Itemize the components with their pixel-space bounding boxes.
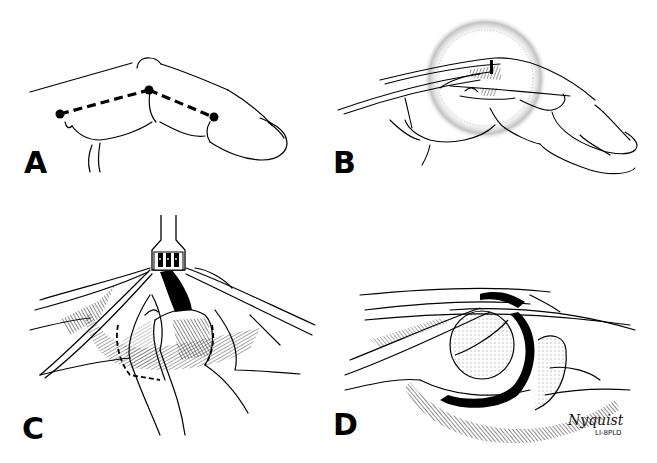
condyle [450, 311, 514, 379]
illustrator-signature-sub: LI-8PLD [595, 430, 621, 437]
panel-c: C [0, 200, 330, 463]
panel-d: D Nyquist LI-8PLD [330, 250, 657, 463]
incision-point-2 [145, 86, 154, 95]
surgical-retraction-illustration [0, 200, 330, 463]
incision-point-3 [210, 113, 219, 122]
finger-anatomy-illustration [330, 0, 657, 200]
illustrator-signature: Nyquist [568, 413, 623, 427]
panel-label-b: B [333, 148, 356, 178]
panel-label-a: A [24, 148, 47, 178]
retractor-icon [152, 215, 185, 270]
panel-label-d: D [333, 410, 358, 440]
panel-b: B [330, 0, 657, 200]
incision-point-1 [56, 110, 65, 119]
finger-incision-illustration [0, 0, 330, 200]
panel-a: A [0, 0, 330, 200]
panel-label-c: C [22, 414, 44, 444]
